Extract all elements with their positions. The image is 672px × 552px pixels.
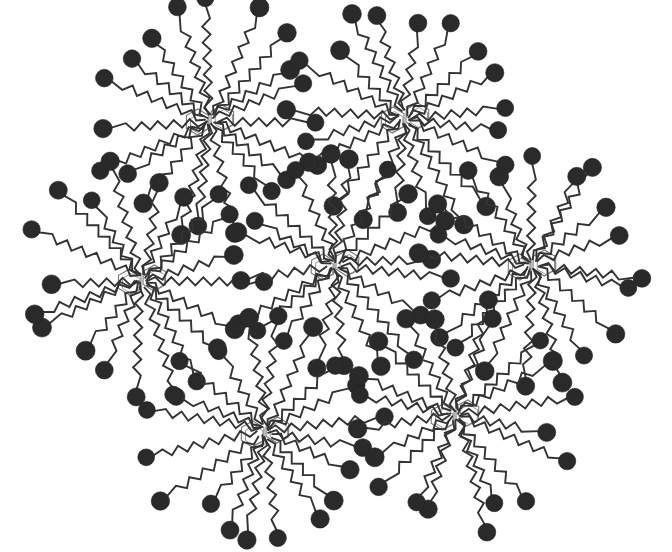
head-group-icon bbox=[354, 210, 372, 228]
head-group-icon bbox=[270, 307, 288, 325]
head-group-icon bbox=[425, 310, 444, 329]
head-group-icon bbox=[341, 461, 359, 479]
head-group-icon bbox=[165, 386, 182, 403]
head-group-icon bbox=[139, 402, 156, 419]
head-group-icon bbox=[568, 167, 586, 185]
head-group-icon bbox=[240, 308, 259, 327]
head-group-icon bbox=[459, 162, 477, 180]
head-group-icon bbox=[490, 122, 507, 139]
head-group-icon bbox=[348, 420, 367, 439]
head-group-icon bbox=[409, 14, 427, 32]
head-group-icon bbox=[311, 510, 329, 528]
head-group-icon bbox=[370, 478, 388, 496]
alkyl-chain bbox=[202, 5, 212, 114]
alkyl-chain bbox=[268, 439, 317, 513]
alkyl-chain bbox=[214, 127, 267, 185]
head-group-icon bbox=[486, 495, 503, 512]
head-group-icon bbox=[287, 161, 304, 178]
head-group-icon bbox=[442, 270, 460, 288]
head-group-icon bbox=[478, 523, 496, 541]
head-group-icon bbox=[202, 495, 219, 512]
head-group-icon bbox=[486, 64, 504, 82]
alkyl-chain bbox=[472, 176, 530, 262]
head-group-icon bbox=[442, 15, 459, 32]
alkyl-chain bbox=[420, 420, 456, 496]
molecular-lattice-diagram bbox=[0, 0, 672, 552]
head-group-icon bbox=[95, 361, 113, 379]
head-group-icon bbox=[423, 292, 440, 309]
head-group-icon bbox=[96, 69, 114, 87]
head-group-icon bbox=[298, 133, 315, 150]
head-group-icon bbox=[368, 7, 386, 25]
head-group-icon bbox=[538, 423, 556, 441]
head-group-icon bbox=[566, 388, 583, 405]
head-group-icon bbox=[409, 244, 428, 263]
head-group-icon bbox=[240, 177, 257, 194]
head-group-icon bbox=[49, 181, 67, 199]
head-group-icon bbox=[197, 0, 214, 7]
head-group-icon bbox=[607, 325, 625, 343]
alkyl-chain bbox=[261, 224, 331, 263]
head-group-icon bbox=[246, 212, 263, 229]
alkyl-chain bbox=[527, 163, 536, 260]
head-group-icon bbox=[275, 332, 292, 349]
molecule-top-left bbox=[92, 0, 327, 244]
head-group-icon bbox=[372, 357, 391, 376]
alkyl-chain bbox=[214, 123, 281, 176]
head-group-icon bbox=[327, 357, 345, 375]
head-group-icon bbox=[575, 347, 592, 364]
head-group-icon bbox=[228, 223, 247, 242]
alkyl-chain bbox=[133, 287, 143, 390]
head-group-icon bbox=[278, 24, 297, 43]
alkyl-chain bbox=[248, 325, 268, 425]
head-group-icon bbox=[324, 491, 343, 510]
molecules-layer bbox=[23, 0, 651, 549]
alkyl-chain bbox=[355, 20, 402, 111]
head-group-icon bbox=[221, 521, 239, 539]
alkyl-chains bbox=[293, 20, 499, 218]
alkyl-chain bbox=[263, 440, 278, 531]
head-group-icon bbox=[134, 194, 153, 213]
head-group-icon bbox=[484, 310, 502, 328]
head-group-icon bbox=[224, 245, 243, 264]
head-group-icon bbox=[490, 167, 509, 186]
head-group-icon bbox=[517, 493, 534, 510]
head-group-icon bbox=[620, 279, 637, 296]
head-group-icon bbox=[497, 100, 514, 117]
head-group-icon bbox=[169, 0, 187, 16]
head-group-icon bbox=[119, 165, 137, 183]
head-group-icon bbox=[558, 452, 575, 469]
head-group-icon bbox=[291, 52, 309, 70]
head-group-icon bbox=[269, 529, 286, 546]
head-group-icon bbox=[23, 221, 40, 238]
head-group-icon bbox=[263, 182, 280, 199]
head-group-icon bbox=[543, 351, 562, 370]
head-group-icon bbox=[210, 186, 227, 203]
head-group-icon bbox=[524, 148, 541, 165]
head-group-icon bbox=[221, 206, 238, 223]
head-group-icon bbox=[408, 494, 425, 511]
head-group-icon bbox=[397, 309, 416, 328]
head-group-icon bbox=[171, 352, 188, 369]
alkyl-chain bbox=[138, 63, 204, 116]
head-group-icon bbox=[123, 50, 141, 68]
alkyl-chain bbox=[537, 238, 612, 262]
head-group-icon bbox=[553, 373, 572, 392]
head-group-icon bbox=[343, 5, 362, 24]
alkyl-chain bbox=[533, 173, 589, 259]
alkyl-chain bbox=[181, 125, 209, 228]
alkyl-chain bbox=[196, 125, 212, 219]
alkyl-chain bbox=[411, 56, 473, 114]
alkyl-chain bbox=[38, 232, 139, 276]
head-group-icon bbox=[365, 448, 384, 467]
alkyl-chain bbox=[147, 283, 229, 326]
head-group-icon bbox=[304, 317, 323, 336]
head-group-icon bbox=[532, 332, 549, 349]
alkyl-chain bbox=[523, 269, 537, 379]
head-group-icon bbox=[83, 192, 100, 209]
head-group-icon bbox=[151, 492, 169, 510]
head-group-icon bbox=[101, 152, 119, 170]
head-group-icon bbox=[469, 43, 487, 61]
head-group-icon bbox=[399, 185, 418, 204]
head-group-icon bbox=[138, 449, 155, 466]
